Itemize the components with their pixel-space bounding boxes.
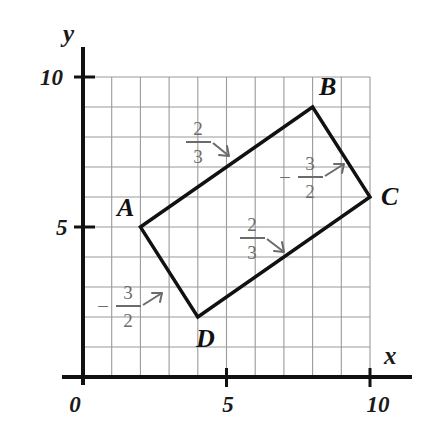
x-tick-label-5: 5 xyxy=(222,392,234,417)
slope-ad-sign: – xyxy=(97,294,108,315)
slope-dc-arrow xyxy=(267,239,284,252)
slope-ad-denominator: 2 xyxy=(123,310,133,331)
slope-dc-numerator: 2 xyxy=(247,214,257,235)
slope-annotation-ab: 2 3 xyxy=(186,118,229,167)
slope-annotation-ad: – 3 2 xyxy=(97,282,162,331)
coordinate-grid-figure: y x 10 5 0 5 10 A B C D 2 3 – 3 xyxy=(0,0,437,423)
slope-ab-numerator: 2 xyxy=(193,118,203,139)
slope-ab-denominator: 3 xyxy=(193,146,203,167)
y-axis-label: y xyxy=(60,20,75,47)
slope-bc-numerator: 3 xyxy=(305,153,315,174)
vertex-label-b: B xyxy=(318,72,336,101)
vertex-label-c: C xyxy=(381,182,399,211)
y-tick-label-10: 10 xyxy=(40,65,64,90)
slope-bc-denominator: 2 xyxy=(305,181,315,202)
slope-annotation-bc: – 3 2 xyxy=(279,153,344,202)
slope-dc-denominator: 3 xyxy=(247,242,257,263)
axes xyxy=(62,47,412,387)
x-axis-label: x xyxy=(383,342,397,369)
slope-ad-numerator: 3 xyxy=(123,282,133,303)
vertex-label-a: A xyxy=(115,193,134,222)
slope-annotation-dc: 2 3 xyxy=(240,214,284,263)
slope-bc-sign: – xyxy=(279,165,290,186)
plot-svg: y x 10 5 0 5 10 A B C D 2 3 – 3 xyxy=(0,0,437,423)
x-tick-label-0: 0 xyxy=(69,392,81,417)
x-tick-label-10: 10 xyxy=(367,392,391,417)
vertex-label-d: D xyxy=(195,324,215,353)
y-tick-label-5: 5 xyxy=(56,215,68,240)
slope-ad-arrow xyxy=(143,293,162,305)
